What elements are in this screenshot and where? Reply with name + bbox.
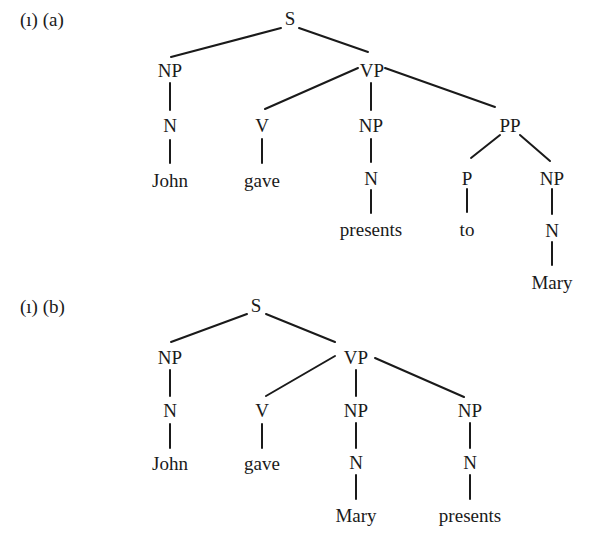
tree-node-s: S — [285, 9, 296, 28]
tree-branch — [265, 68, 358, 109]
tree-branch — [266, 356, 335, 396]
tree-node-np: NP — [540, 169, 564, 188]
tree-branch — [266, 314, 335, 342]
tree-branch — [471, 135, 500, 158]
example-label-1b: (ı) (b) — [20, 297, 65, 316]
tree-node-presents: presents — [439, 506, 501, 525]
tree-branch — [375, 358, 464, 397]
tree-node-to: to — [460, 220, 475, 239]
tree-node-presents: presents — [340, 220, 402, 239]
tree-branch — [385, 68, 495, 107]
tree-branch — [520, 135, 550, 161]
tree-node-n: N — [364, 169, 378, 188]
tree-node-np: NP — [158, 348, 182, 367]
syntax-tree-figure: (ı) (a) (ı) (b) SNPNJohnVPVgaveNPNpresen… — [0, 0, 589, 548]
tree-node-n: N — [163, 401, 177, 420]
tree-node-p: P — [462, 169, 473, 188]
tree-branches — [0, 0, 589, 548]
tree-node-mary: Mary — [335, 506, 376, 525]
tree-node-john: John — [152, 454, 188, 473]
example-label-1a: (ı) (a) — [20, 10, 64, 29]
tree-node-mary: Mary — [531, 273, 572, 292]
tree-node-pp: PP — [499, 116, 520, 135]
tree-node-vp: VP — [344, 348, 368, 367]
tree-node-n: N — [463, 453, 477, 472]
tree-node-vp: VP — [360, 61, 384, 80]
tree-node-np: NP — [458, 401, 482, 420]
tree-node-n: N — [545, 221, 559, 240]
tree-node-np: NP — [344, 401, 368, 420]
tree-node-s: S — [251, 296, 262, 315]
tree-branch — [171, 28, 281, 57]
tree-branch — [299, 28, 368, 52]
tree-node-np: NP — [158, 61, 182, 80]
tree-node-np: NP — [359, 116, 383, 135]
tree-node-n: N — [349, 453, 363, 472]
tree-node-gave: gave — [244, 171, 280, 190]
tree-branch — [171, 314, 247, 342]
tree-node-n: N — [163, 116, 177, 135]
tree-node-gave: gave — [244, 454, 280, 473]
tree-node-john: John — [152, 171, 188, 190]
tree-node-v: V — [255, 116, 269, 135]
tree-node-v: V — [255, 401, 269, 420]
